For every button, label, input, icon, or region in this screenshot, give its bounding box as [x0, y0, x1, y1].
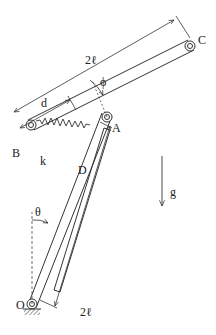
- label-c: C: [198, 33, 206, 47]
- spring: [36, 118, 90, 128]
- label-o: O: [16, 298, 25, 312]
- label-spring-k: k: [40, 154, 46, 168]
- label-a: A: [112, 121, 121, 135]
- dim-lower-2l: [40, 122, 112, 308]
- label-length-upper: 2ℓ: [85, 53, 97, 67]
- label-d: D: [78, 163, 87, 177]
- mechanism-diagram: C A B D O 2ℓ 2ℓ d k g θ ϕ: [0, 0, 216, 335]
- label-theta: θ: [35, 205, 41, 219]
- pin-c: [185, 41, 195, 51]
- label-offset-d: d: [41, 96, 47, 110]
- label-gravity: g: [170, 185, 176, 199]
- arc-theta: [32, 220, 48, 223]
- label-phi: ϕ: [100, 75, 106, 89]
- label-length-lower: 2ℓ: [80, 305, 92, 319]
- label-b: B: [12, 146, 20, 160]
